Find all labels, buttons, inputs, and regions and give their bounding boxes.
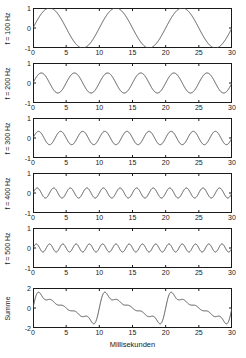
y-tick-label: 1 [27,115,31,122]
panel-y-axis-label-text: Summe [4,296,11,320]
chart-panel: f = 300 Hz10-1051015202530 [0,112,246,166]
y-tick-label: 0 [27,305,31,312]
plot-canvas [33,63,232,103]
x-tick-label: 10 [95,159,103,166]
panel-y-axis-label-text: f = 500 Hz [4,232,11,264]
waveform-line [33,8,232,48]
panel-y-axis-label: f = 200 Hz [0,63,14,103]
chart-panel: f = 400 Hz10-1051015202530 [0,167,246,221]
panel-y-axis-label: f = 100 Hz [0,8,14,48]
x-tick-label: 25 [195,49,203,56]
waveform-line [33,73,232,93]
x-tick-label: 20 [162,329,170,336]
y-tick-label: 1 [27,60,31,67]
fourier-series-figure: f = 100 Hz10-1051015202530f = 200 Hz10-1… [0,0,246,358]
plot-area: 10-1051015202530 [33,63,232,103]
y-tick-label: 1 [27,170,31,177]
x-tick-label: 30 [228,104,236,111]
x-tick-label: 25 [195,104,203,111]
x-tick-label: 25 [195,269,203,276]
x-tick-label: 25 [195,329,203,336]
plot-canvas [33,228,232,268]
panel-y-axis-label: Summe [0,288,14,328]
x-tick-label: 20 [162,104,170,111]
x-tick-label: 15 [129,49,137,56]
x-tick-label: 20 [162,214,170,221]
waveform-line [33,292,232,324]
x-tick-label: 0 [31,159,35,166]
plot-canvas [33,173,232,213]
x-tick-label: 0 [31,49,35,56]
x-tick-label: 30 [228,214,236,221]
chart-panel: f = 500 Hz10-1051015202530 [0,222,246,276]
plot-canvas [33,8,232,48]
x-tick-label: 30 [228,269,236,276]
x-tick-label: 10 [95,269,103,276]
x-tick-label: 10 [95,214,103,221]
panel-y-axis-label-text: f = 400 Hz [4,177,11,209]
x-tick-label: 0 [31,329,35,336]
x-tick-label: 5 [64,49,68,56]
y-tick-label: 1 [27,5,31,12]
waveform-line [33,244,232,252]
plot-area: 10-1051015202530 [33,173,232,213]
plot-area: 20-2051015202530 [33,288,232,328]
plot-area: 10-1051015202530 [33,118,232,158]
x-tick-label: 15 [129,159,137,166]
x-tick-label: 10 [95,104,103,111]
x-axis-title: Millisekunden [33,340,232,349]
plot-canvas [33,118,232,158]
x-tick-label: 30 [228,329,236,336]
waveform-line [33,131,232,144]
x-tick-label: 30 [228,159,236,166]
y-tick-label: 0 [27,25,31,32]
x-tick-label: 5 [64,269,68,276]
panel-y-axis-label: f = 400 Hz [0,173,14,213]
x-tick-label: 25 [195,214,203,221]
chart-panel: f = 200 Hz10-1051015202530 [0,57,246,111]
y-tick-label: 1 [27,225,31,232]
x-tick-label: 20 [162,159,170,166]
x-tick-label: 0 [31,104,35,111]
x-tick-label: 30 [228,49,236,56]
x-tick-label: 5 [64,104,68,111]
y-tick-label: 2 [27,285,31,292]
x-tick-label: 15 [129,214,137,221]
panel-y-axis-label-text: f = 200 Hz [4,67,11,99]
panel-y-axis-label-text: f = 100 Hz [4,12,11,44]
x-tick-label: 10 [95,49,103,56]
x-tick-label: 15 [129,329,137,336]
x-tick-label: 15 [129,269,137,276]
plot-canvas [33,288,232,328]
x-tick-label: 0 [31,269,35,276]
waveform-line [33,188,232,198]
x-tick-label: 20 [162,269,170,276]
plot-area: 10-1051015202530 [33,8,232,48]
y-tick-label: 0 [27,190,31,197]
plot-area: 10-1051015202530 [33,228,232,268]
x-tick-label: 20 [162,49,170,56]
y-tick-label: 0 [27,135,31,142]
y-tick-label: 0 [27,80,31,87]
y-tick-label: 0 [27,245,31,252]
panel-y-axis-label: f = 300 Hz [0,118,14,158]
x-tick-label: 5 [64,214,68,221]
x-tick-label: 25 [195,159,203,166]
x-tick-label: 5 [64,329,68,336]
x-tick-label: 0 [31,214,35,221]
panel-y-axis-label: f = 500 Hz [0,228,14,268]
x-tick-label: 5 [64,159,68,166]
panel-y-axis-label-text: f = 300 Hz [4,122,11,154]
x-tick-label: 15 [129,104,137,111]
chart-panel: f = 100 Hz10-1051015202530 [0,2,246,56]
x-tick-label: 10 [95,329,103,336]
chart-panel: Summe20-2051015202530 [0,282,246,336]
